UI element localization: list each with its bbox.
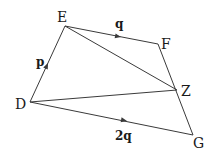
edge-DZ xyxy=(30,90,177,102)
edge-DG xyxy=(30,102,193,135)
label-vector-q: q xyxy=(115,17,124,31)
label-vector-2q: 2q xyxy=(115,129,132,143)
edge-EF xyxy=(65,26,158,44)
vector-diagram: E F Z G D p q 2q xyxy=(0,0,214,158)
label-E: E xyxy=(57,9,67,25)
label-G: G xyxy=(193,135,204,151)
arrow-2q-icon xyxy=(121,117,128,123)
label-vector-p: p xyxy=(36,55,44,69)
label-D: D xyxy=(15,96,26,112)
label-F: F xyxy=(161,36,171,52)
label-Z: Z xyxy=(181,83,191,99)
